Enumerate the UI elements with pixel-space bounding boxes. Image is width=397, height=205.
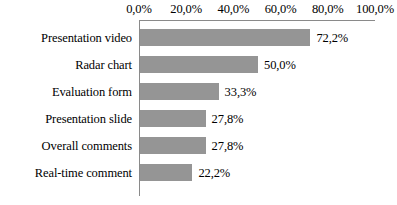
- category-label: Overall comments: [0, 138, 132, 153]
- bar-row: Radar chart50,0%: [0, 56, 397, 73]
- bar: [140, 164, 192, 181]
- bar-value-label: 27,8%: [212, 111, 244, 126]
- bar: [140, 137, 206, 154]
- bar: [140, 29, 310, 46]
- bar-value-label: 50,0%: [264, 57, 296, 72]
- bar-row: Real-time comment22,2%: [0, 164, 397, 181]
- x-tick-label: 100,0%: [356, 1, 394, 17]
- x-tick-label: 0,0%: [126, 1, 152, 17]
- bar-row: Overall comments27,8%: [0, 137, 397, 154]
- bar: [140, 110, 206, 127]
- bar-chart: 0,0%20,0%40,0%60,0%80,0%100,0% Presentat…: [0, 0, 397, 205]
- category-label: Presentation slide: [0, 111, 132, 126]
- plot-top-rule: [139, 20, 375, 21]
- bar-value-label: 22,2%: [198, 165, 230, 180]
- x-tick-label: 20,0%: [170, 1, 202, 17]
- bar-value-label: 33,3%: [225, 84, 257, 99]
- bar: [140, 83, 219, 100]
- category-label: Evaluation form: [0, 84, 132, 99]
- x-tick-label: 80,0%: [312, 1, 344, 17]
- bar-row: Presentation video72,2%: [0, 29, 397, 46]
- bar-value-label: 72,2%: [316, 30, 348, 45]
- bar: [140, 56, 258, 73]
- category-label: Radar chart: [0, 57, 132, 72]
- bar-value-label: 27,8%: [212, 138, 244, 153]
- x-tick-label: 60,0%: [265, 1, 297, 17]
- x-tick-label: 40,0%: [217, 1, 249, 17]
- category-label: Presentation video: [0, 30, 132, 45]
- x-axis-tick-labels: 0,0%20,0%40,0%60,0%80,0%100,0%: [0, 0, 397, 20]
- bar-row: Presentation slide27,8%: [0, 110, 397, 127]
- bar-row: Evaluation form33,3%: [0, 83, 397, 100]
- category-label: Real-time comment: [0, 165, 132, 180]
